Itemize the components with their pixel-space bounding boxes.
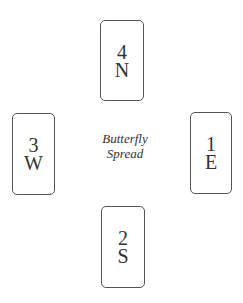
card-direction: E (205, 153, 217, 171)
card-number: 4 (117, 43, 127, 61)
spread-title-line-2: Spread (85, 146, 165, 161)
card-east: 1 E (190, 112, 232, 194)
card-south: 2 S (101, 206, 145, 288)
card-direction: N (115, 61, 129, 79)
card-direction: S (117, 247, 128, 265)
card-direction: W (24, 154, 43, 172)
spread-title: Butterfly Spread (85, 131, 165, 161)
spread-title-line-1: Butterfly (85, 131, 165, 146)
card-north: 4 N (100, 20, 144, 101)
card-west: 3 W (12, 113, 55, 195)
